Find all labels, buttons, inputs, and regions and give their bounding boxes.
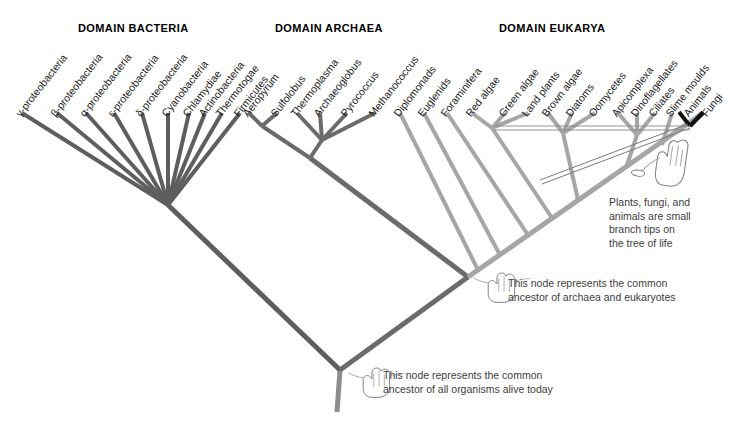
eukarya-clade	[400, 112, 703, 277]
root-trunk	[337, 370, 340, 412]
root-trunk-group	[337, 370, 340, 412]
archaea-stem	[310, 158, 468, 277]
archaea-crown-stem	[310, 140, 322, 158]
hand-index-finger	[473, 278, 489, 283]
bacteria-backbone	[168, 205, 340, 370]
archaea-subclade-stem-a	[262, 126, 310, 158]
hand-index-finger	[348, 373, 364, 378]
domain-title-eukarya: DOMAIN EUKARYA	[499, 22, 605, 34]
bacteria-branch-3	[114, 113, 168, 205]
annotation-archaea-eukaryote-ancestor: This node represents the common ancestor…	[508, 277, 734, 304]
annotation-branch-tips: Plants, fungi, and animals are small bra…	[609, 196, 729, 250]
eukarya-branch-foraminifera	[447, 113, 528, 235]
domain-title-archaea: DOMAIN ARCHAEA	[275, 22, 383, 34]
bacteria-branch-1	[57, 113, 168, 205]
bacteria-clade	[22, 113, 340, 370]
bacteria-branch-8	[168, 113, 222, 205]
phylogenetic-tree-figure: DOMAIN BACTERIA DOMAIN ARCHAEA DOMAIN EU…	[0, 0, 734, 423]
eukarya-plant-stem	[492, 128, 552, 218]
archaea-eukarya-backbone	[340, 277, 468, 370]
annotation-universal-ancestor: This node represents the common ancestor…	[383, 369, 613, 396]
domain-title-bacteria: DOMAIN BACTERIA	[78, 22, 189, 34]
archaea-clade	[249, 113, 468, 370]
